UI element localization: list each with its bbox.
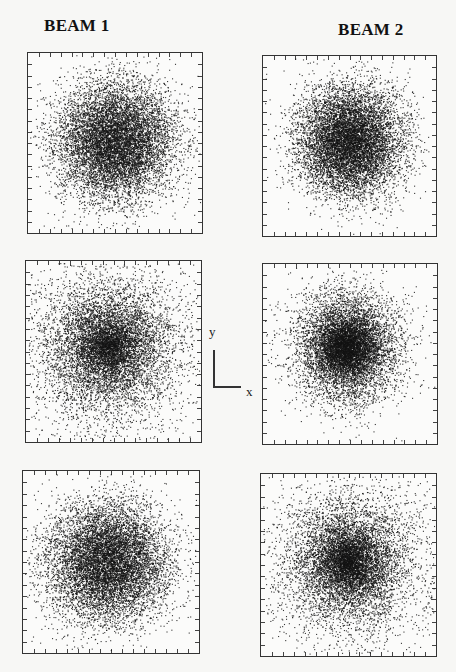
scatter-panel-beam2-row1 (262, 55, 437, 237)
scatter-panel-beam1-row2 (25, 260, 202, 443)
y-axis-label: y (209, 324, 216, 340)
column-title-beam-2: BEAM 2 (338, 20, 404, 40)
scatter-panel-beam1-row3 (22, 470, 200, 654)
column-title-beam-1: BEAM 1 (44, 16, 110, 36)
x-axis-label: x (246, 384, 253, 400)
scatter-canvas (26, 261, 201, 442)
y-axis-arrow (213, 350, 215, 388)
scatter-canvas (263, 264, 437, 444)
scatter-panel-beam1-row1 (27, 52, 203, 234)
scatter-canvas (23, 471, 199, 653)
scatter-panel-beam2-row3 (260, 473, 437, 657)
scatter-panel-beam2-row2 (262, 263, 438, 445)
x-axis-arrow (213, 386, 241, 388)
scatter-canvas (261, 474, 436, 656)
scatter-canvas (263, 56, 436, 236)
scatter-canvas (28, 53, 202, 233)
